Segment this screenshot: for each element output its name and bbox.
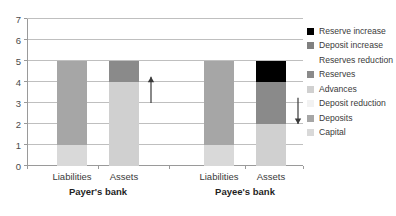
bar-segment-reserves (256, 124, 286, 166)
x-tick-mark (303, 166, 304, 169)
bar-segment-deposits (204, 61, 234, 145)
legend-swatch-icon (307, 42, 314, 49)
plot-area: LiabilitiesAssetsLiabilitiesAssetsPayer'… (27, 19, 303, 166)
legend-swatch-icon (307, 86, 314, 93)
legend-item[interactable]: Reserves (307, 68, 395, 83)
legend-item[interactable]: Deposit increase (307, 39, 395, 54)
legend-label: Deposits (319, 114, 352, 123)
legend-swatch-icon (307, 115, 314, 122)
bar-payeesbank-liabilities (204, 19, 234, 166)
legend-label: Reserves (319, 70, 355, 79)
payee-down-arrow (291, 19, 305, 166)
y-tick-label: 5 (16, 56, 21, 67)
y-tick-label: 6 (16, 35, 21, 46)
bar-segment-capital (204, 145, 234, 166)
legend-item[interactable]: Reserves reduction (307, 53, 395, 68)
legend-swatch-icon (307, 129, 314, 136)
x-tick-mark (98, 166, 99, 169)
x-category-label: Liabilities (52, 171, 91, 182)
legend-swatch-icon (307, 71, 314, 78)
bar-payeesbank-assets (256, 19, 286, 166)
y-axis-line (27, 19, 28, 166)
bar-segment-reserve-increase (256, 61, 286, 82)
x-group-label: Payer's bank (69, 186, 127, 197)
payer-up-arrow (144, 19, 158, 166)
y-tick-label: 0 (16, 161, 21, 172)
x-category-label: Assets (257, 171, 286, 182)
x-tick-mark (169, 166, 170, 169)
legend-label: Reserves reduction (319, 56, 393, 65)
stacked-bar-chart: LiabilitiesAssetsLiabilitiesAssetsPayer'… (0, 0, 396, 216)
legend-item[interactable]: Capital (307, 126, 395, 141)
legend-label: Deposit increase (319, 41, 383, 50)
bar-segment-reserves (109, 82, 139, 166)
x-tick-mark (27, 166, 28, 169)
legend-item[interactable]: Deposit reduction (307, 97, 395, 112)
y-tick-label: 1 (16, 140, 21, 151)
bar-segment-advances (109, 61, 139, 82)
legend-item[interactable]: Deposits (307, 111, 395, 126)
x-category-label: Assets (110, 171, 139, 182)
bar-segment-deposits (57, 61, 87, 145)
y-tick-label: 3 (16, 98, 21, 109)
legend-swatch-icon (307, 57, 314, 64)
bar-payersbank-assets (109, 19, 139, 166)
legend-item[interactable]: Reserve increase (307, 24, 395, 39)
legend-swatch-icon (307, 28, 314, 35)
bar-segment-capital (57, 145, 87, 166)
y-tick-label: 2 (16, 119, 21, 130)
chart-legend: Reserve increaseDeposit increaseReserves… (307, 24, 395, 140)
legend-label: Capital (319, 128, 346, 137)
bar-segment-advances (256, 82, 286, 124)
legend-label: Advances (319, 85, 357, 94)
bar-payersbank-liabilities (57, 19, 87, 166)
x-tick-mark (245, 166, 246, 169)
x-category-label: Liabilities (199, 171, 238, 182)
legend-label: Reserve increase (319, 27, 386, 36)
legend-item[interactable]: Advances (307, 82, 395, 97)
legend-swatch-icon (307, 100, 314, 107)
y-tick-label: 7 (16, 14, 21, 25)
legend-label: Deposit reduction (319, 99, 386, 108)
x-group-label: Payee's bank (215, 186, 275, 197)
y-tick-label: 4 (16, 77, 21, 88)
